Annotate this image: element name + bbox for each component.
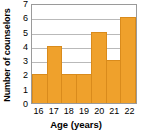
x-axis-title: Age (years) bbox=[14, 119, 138, 130]
bar bbox=[61, 74, 77, 103]
x-tick-label: 21 bbox=[107, 105, 122, 118]
y-axis-title: Number of counselors bbox=[0, 0, 14, 110]
plot-area bbox=[31, 4, 137, 104]
y-tick-label: 2 bbox=[23, 71, 28, 80]
x-tick-label: 18 bbox=[61, 105, 76, 118]
y-tick-label: 4 bbox=[23, 42, 28, 51]
bar bbox=[120, 17, 136, 103]
x-tick-label: 16 bbox=[31, 105, 46, 118]
bar bbox=[91, 32, 107, 103]
bar bbox=[76, 74, 92, 103]
x-tick-label: 22 bbox=[122, 105, 137, 118]
y-tick-label: 0 bbox=[23, 100, 28, 109]
y-tick-label: 6 bbox=[23, 14, 28, 23]
x-tick-label: 17 bbox=[46, 105, 61, 118]
y-axis-tick-labels: 01234567 bbox=[14, 0, 30, 104]
bars-group bbox=[32, 5, 136, 103]
y-tick-label: 3 bbox=[23, 57, 28, 66]
y-tick-label: 1 bbox=[23, 85, 28, 94]
x-tick-label: 20 bbox=[92, 105, 107, 118]
x-tick-label: 19 bbox=[76, 105, 91, 118]
y-tick-label: 5 bbox=[23, 28, 28, 37]
x-axis-tick-labels: 16171819202122 bbox=[31, 105, 137, 118]
bar bbox=[106, 60, 122, 103]
y-tick-label: 7 bbox=[23, 0, 28, 9]
y-axis-title-label: Number of counselors bbox=[2, 8, 12, 102]
bar bbox=[32, 74, 48, 103]
histogram-figure: Number of counselors 01234567 1617181920… bbox=[0, 0, 145, 136]
bar bbox=[47, 46, 63, 103]
